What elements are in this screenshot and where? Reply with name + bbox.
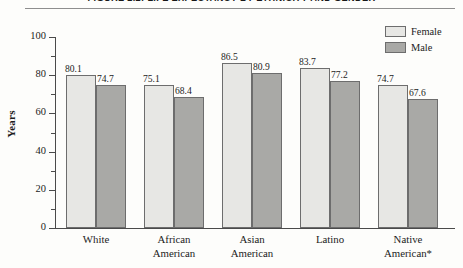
x-axis-line <box>55 228 455 229</box>
bar-value-label: 74.7 <box>377 73 394 84</box>
bar-group: 86.580.9 <box>222 37 282 228</box>
y-tick-label: 60 <box>8 106 46 117</box>
bar-value-label: 80.9 <box>253 61 270 72</box>
category-label: NativeAmerican* <box>358 233 458 260</box>
y-tick-label: 40 <box>8 145 46 156</box>
legend-label-male: Male <box>411 42 432 53</box>
category-label-line: American <box>202 247 302 261</box>
bar-value-label: 68.4 <box>175 85 192 96</box>
y-tick-label: 0 <box>8 221 46 232</box>
y-tick-label: 80 <box>8 68 46 79</box>
bar-male[interactable] <box>96 85 126 228</box>
legend-swatch-male-icon <box>385 42 406 53</box>
bar-value-label: 67.6 <box>409 87 426 98</box>
legend-swatch-female-icon <box>385 26 406 37</box>
bar-female[interactable] <box>144 85 174 228</box>
bar-female[interactable] <box>300 68 330 228</box>
bar-group: 83.777.2 <box>300 37 360 228</box>
figure-title: FIGURE 2.2: LIFE EXPECTANCY BY ETHNICITY… <box>0 0 463 3</box>
bar-group: 74.767.6 <box>378 37 438 228</box>
bar-male[interactable] <box>330 81 360 228</box>
plot-area: 80.174.775.168.486.580.983.777.274.767.6 <box>55 37 455 228</box>
title-divider <box>25 8 455 9</box>
y-tick-label: 100 <box>8 30 46 41</box>
bar-female[interactable] <box>66 75 96 228</box>
bar-value-label: 80.1 <box>65 63 82 74</box>
legend-item-male[interactable]: Male <box>385 41 442 54</box>
bar-group: 80.174.7 <box>66 37 126 228</box>
bar-male[interactable] <box>252 73 282 228</box>
bar-male[interactable] <box>174 97 204 228</box>
legend-label-female: Female <box>411 26 442 37</box>
bar-group: 75.168.4 <box>144 37 204 228</box>
bar-value-label: 77.2 <box>331 69 348 80</box>
bar-value-label: 74.7 <box>97 73 114 84</box>
bar-value-label: 86.5 <box>221 51 238 62</box>
bar-value-label: 75.1 <box>143 73 160 84</box>
y-tick-label: 20 <box>8 183 46 194</box>
category-label-line: Native <box>358 233 458 247</box>
legend: Female Male <box>385 25 442 57</box>
bar-female[interactable] <box>378 85 408 228</box>
y-tick-mark <box>49 228 55 229</box>
figure-root: FIGURE 2.2: LIFE EXPECTANCY BY ETHNICITY… <box>0 0 463 268</box>
bar-female[interactable] <box>222 63 252 228</box>
bar-value-label: 83.7 <box>299 56 316 67</box>
legend-item-female[interactable]: Female <box>385 25 442 38</box>
category-label-line: American* <box>358 247 458 261</box>
bar-male[interactable] <box>408 99 438 228</box>
